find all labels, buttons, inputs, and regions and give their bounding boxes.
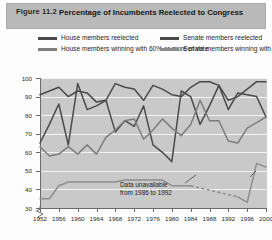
series-line xyxy=(40,82,266,102)
series-line xyxy=(40,84,266,162)
series-lines xyxy=(0,0,272,240)
series-line-gap xyxy=(191,186,238,197)
figure-container: Figure 11.2 Percentage of Incumbents Ree… xyxy=(0,0,272,240)
series-line xyxy=(238,163,266,202)
annotation-data-unavailable: Data unavailable from 1986 to 1992 xyxy=(120,181,172,198)
annotation-line-2: from 1986 to 1992 xyxy=(120,189,172,197)
annotation-line-1: Data unavailable xyxy=(120,181,172,189)
